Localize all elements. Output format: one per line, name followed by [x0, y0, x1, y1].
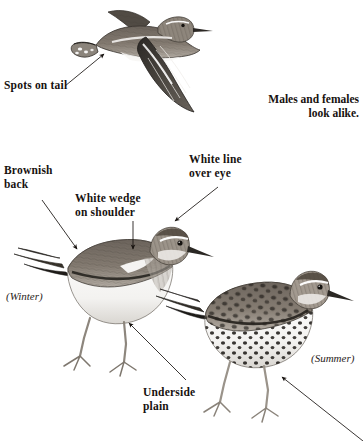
winter-bird-legs — [80, 318, 126, 362]
label-white-wedge-on-shoulder: White wedge on shoulder — [75, 192, 141, 219]
label-underside-plain: Underside plain — [143, 386, 195, 413]
figure-winter-bird — [14, 227, 214, 376]
season-tag-winter: (Winter) — [6, 290, 43, 303]
label-brownish-back: Brownish back — [4, 164, 53, 191]
figure-flying-bird — [71, 10, 213, 112]
label-white-line-over-eye: White line over eye — [189, 153, 242, 180]
bird-artwork — [0, 0, 363, 441]
illustration-plate: Spots on tail Males and females look ali… — [0, 0, 363, 441]
label-spots-on-tail: Spots on tail — [4, 79, 67, 93]
note-males-and-females: Males and females look alike. — [209, 92, 359, 120]
season-tag-summer: (Summer) — [311, 352, 354, 365]
summer-bird-legs — [220, 362, 268, 408]
